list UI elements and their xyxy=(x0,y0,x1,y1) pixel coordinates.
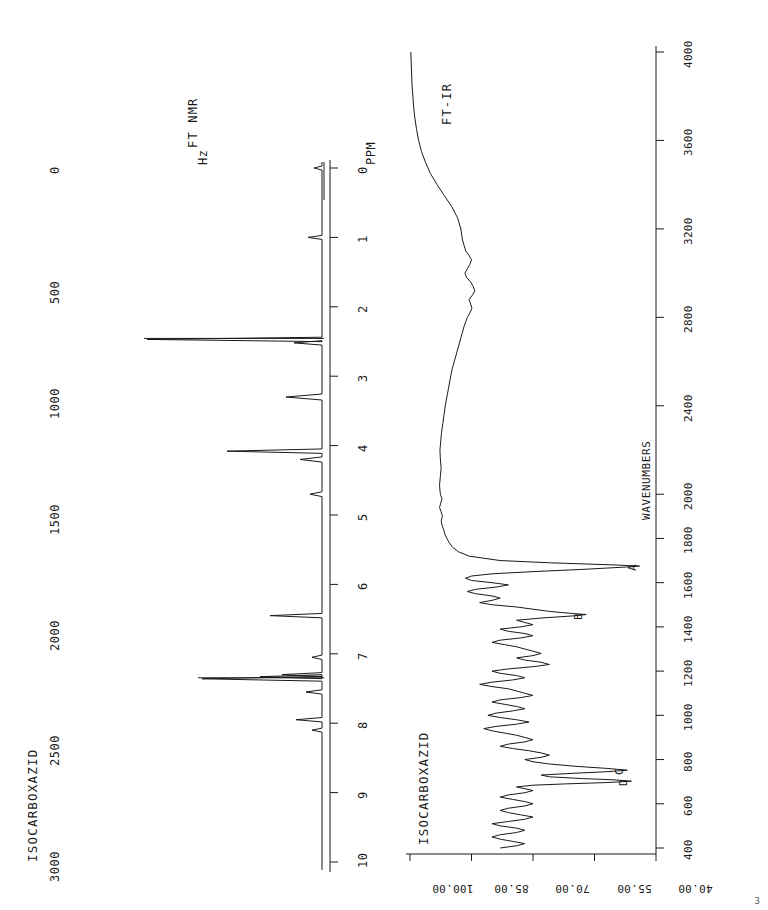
ir-spectrum-panel: FT-IR ISOCARBOXAZID A 1675B 1456C 752D 7… xyxy=(380,0,768,910)
tick-label: 1600 xyxy=(682,571,695,599)
ir-plot xyxy=(380,0,768,910)
tick-label: 1000 xyxy=(682,704,695,732)
tick-label: 2000 xyxy=(48,620,62,651)
tick-label: 40.00 xyxy=(678,882,713,895)
tick-label: 9 xyxy=(356,791,370,799)
tick-label: 10 xyxy=(356,853,370,868)
tick-label: 5 xyxy=(356,513,370,521)
tick-label: 0 xyxy=(48,166,62,174)
tick-label: 1200 xyxy=(682,659,695,687)
tick-label: 0 xyxy=(356,166,370,174)
tick-label: 55.00 xyxy=(617,882,652,895)
tick-label: 1800 xyxy=(682,527,695,555)
tick-label: 2500 xyxy=(48,735,62,766)
ir-band-marker-d: D xyxy=(617,780,630,787)
tick-label: 3600 xyxy=(682,129,695,157)
tick-label: 1 xyxy=(356,236,370,244)
tick-label: 2800 xyxy=(682,306,695,334)
tick-label: 400 xyxy=(682,839,695,860)
page-number: 3 xyxy=(755,896,760,906)
nmr-spectrum-panel: FT NMR ISOCARBOXAZID Hz PPM PEAK LISTING… xyxy=(0,0,390,910)
tick-label: 600 xyxy=(682,795,695,816)
tick-label: 3 xyxy=(356,374,370,382)
tick-label: 2000 xyxy=(682,483,695,511)
tick-label: 2 xyxy=(356,305,370,313)
tick-label: 3000 xyxy=(48,851,62,882)
tick-label: 4 xyxy=(356,444,370,452)
tick-label: 85.00 xyxy=(494,882,529,895)
ir-band-marker-a: A xyxy=(626,564,639,571)
tick-label: 6 xyxy=(356,583,370,591)
ir-band-marker-b: B xyxy=(572,613,585,620)
tick-label: 800 xyxy=(682,751,695,772)
tick-label: 1400 xyxy=(682,615,695,643)
nmr-plot xyxy=(0,0,390,910)
tick-label: 8 xyxy=(356,721,370,729)
tick-label: 3200 xyxy=(682,217,695,245)
tick-label: 70.00 xyxy=(555,882,590,895)
tick-label: 1500 xyxy=(48,504,62,535)
tick-label: 1000 xyxy=(48,388,62,419)
tick-label: 500 xyxy=(48,280,62,303)
tick-label: 2400 xyxy=(682,394,695,422)
tick-label: 7 xyxy=(356,652,370,660)
tick-label: 4000 xyxy=(682,40,695,68)
tick-label: 100.00 xyxy=(432,882,474,895)
ir-band-marker-c: C xyxy=(613,769,626,776)
